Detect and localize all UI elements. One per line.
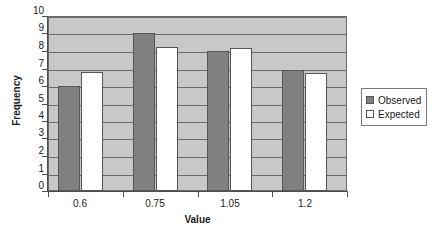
- bar-expected: [81, 72, 103, 191]
- y-axis-ticklabel: 3: [22, 128, 44, 138]
- legend-swatch-expected-icon: [366, 110, 374, 118]
- x-axis-ticklabel: 1.05: [200, 198, 260, 209]
- y-axis-ticklabel: 2: [22, 146, 44, 156]
- bar-observed: [282, 70, 304, 191]
- y-axis-ticklabel: 1: [22, 164, 44, 174]
- x-axis-tickmark: [272, 192, 273, 197]
- y-axis-ticklabel: 6: [22, 76, 44, 86]
- y-axis-tickmark: [42, 33, 47, 34]
- bar-observed: [58, 86, 80, 191]
- y-axis-tickmark: [42, 174, 47, 175]
- bar-observed: [133, 33, 155, 191]
- x-axis-ticklabel: 0.75: [125, 198, 185, 209]
- y-axis-ticklabel: 4: [22, 111, 44, 121]
- y-axis-tickmark: [42, 69, 47, 70]
- y-axis-tickmark: [42, 104, 47, 105]
- y-axis-ticklabel: 9: [22, 23, 44, 33]
- legend-item[interactable]: Observed: [366, 93, 421, 107]
- y-axis-ticklabel: 10: [22, 6, 44, 16]
- y-axis-tickmark: [42, 16, 47, 17]
- y-axis-tickmark: [42, 156, 47, 157]
- bar-expected: [305, 73, 327, 191]
- x-axis-tickmark: [48, 192, 49, 197]
- y-axis-ticklabel: 5: [22, 94, 44, 104]
- y-axis-ticklabel: 7: [22, 59, 44, 69]
- y-axis-tickmark: [42, 121, 47, 122]
- y-axis-title: Frequency: [11, 61, 22, 141]
- legend-swatch-observed-icon: [366, 96, 374, 104]
- legend-label: Expected: [378, 109, 420, 120]
- legend: Observed Expected: [361, 88, 427, 126]
- y-axis-ticklabel: 8: [22, 41, 44, 51]
- x-axis-title: Value: [48, 214, 347, 225]
- legend-label: Observed: [378, 95, 421, 106]
- x-axis-tickmark: [198, 192, 199, 197]
- y-axis-tickmark: [42, 51, 47, 52]
- bar-observed: [207, 51, 229, 191]
- x-axis-tickmark: [347, 192, 348, 197]
- x-axis-ticklabel: 0.6: [50, 198, 110, 209]
- bar-expected: [156, 47, 178, 191]
- bar-expected: [230, 48, 252, 191]
- x-axis-tickmark: [123, 192, 124, 197]
- y-axis-ticklabels: 012345678910: [22, 11, 44, 191]
- x-axis-ticklabel: 1.2: [275, 198, 335, 209]
- y-axis-tickmark: [42, 191, 47, 192]
- bars-layer: [48, 16, 347, 191]
- y-axis-ticklabel: 0: [22, 181, 44, 191]
- y-axis-tickmark: [42, 138, 47, 139]
- bar-chart: Frequency 012345678910 0.60.751.051.2 Va…: [0, 0, 437, 239]
- legend-item[interactable]: Expected: [366, 107, 421, 121]
- y-axis-tickmark: [42, 86, 47, 87]
